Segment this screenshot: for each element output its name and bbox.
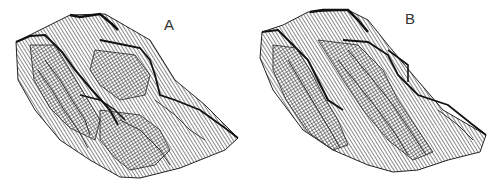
wireframe-surface-a	[0, 0, 248, 186]
panel-a: A	[0, 0, 248, 186]
wireframe-surface-b	[248, 0, 496, 186]
panel-b: B	[248, 0, 496, 186]
panel-label-a: A	[164, 16, 174, 33]
panel-label-b: B	[405, 10, 415, 27]
